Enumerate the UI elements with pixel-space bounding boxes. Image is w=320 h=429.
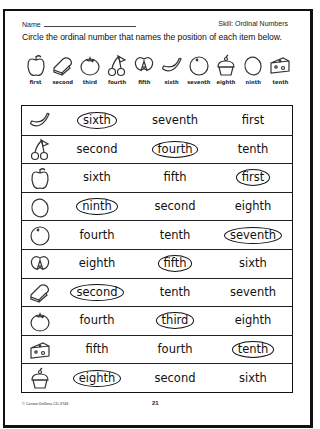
ordinal-option[interactable]: fifth bbox=[58, 342, 136, 357]
item-picture bbox=[22, 309, 58, 333]
pretzel-icon bbox=[131, 53, 157, 77]
item-picture bbox=[22, 223, 58, 247]
circled-answer: tenth bbox=[232, 341, 275, 358]
circled-answer: third bbox=[156, 312, 195, 329]
apple-icon bbox=[23, 53, 49, 77]
legend-item: first bbox=[22, 53, 49, 85]
legend-item: ninth bbox=[240, 53, 267, 85]
legend-item: tenth bbox=[267, 53, 294, 85]
bread-icon bbox=[50, 53, 76, 77]
item-picture bbox=[22, 280, 58, 304]
instructions: Circle the ordinal number that names the… bbox=[22, 32, 282, 42]
option-label: fourth bbox=[154, 342, 197, 357]
legend-label: tenth bbox=[273, 79, 289, 85]
legend-item: eighth bbox=[213, 53, 240, 85]
orange-icon bbox=[28, 223, 52, 247]
ordinal-option[interactable]: tenth bbox=[214, 341, 292, 358]
option-label: eighth bbox=[75, 256, 120, 271]
ordinal-legend: firstsecondthirdfourthfifthsixthseventhe… bbox=[22, 53, 294, 85]
cheese-icon bbox=[267, 53, 293, 77]
legend-label: fifth bbox=[138, 79, 150, 85]
ordinal-option[interactable]: second bbox=[136, 199, 214, 214]
ordinal-option[interactable]: seventh bbox=[214, 285, 292, 300]
table-row: ninthsecondeighth bbox=[22, 192, 292, 221]
ordinal-option[interactable]: fourth bbox=[136, 141, 214, 158]
item-picture bbox=[22, 166, 58, 190]
ordinal-option[interactable]: third bbox=[136, 312, 214, 329]
name-field: Name bbox=[22, 20, 136, 28]
circled-answer: sixth bbox=[77, 112, 117, 129]
ordinal-option[interactable]: seventh bbox=[136, 113, 214, 128]
pretzel-icon bbox=[28, 252, 52, 276]
option-label: seventh bbox=[148, 113, 202, 128]
option-label: fourth bbox=[76, 313, 119, 328]
ordinal-option[interactable]: first bbox=[214, 113, 292, 128]
option-label: tenth bbox=[234, 142, 273, 157]
ordinal-option[interactable]: sixth bbox=[58, 170, 136, 185]
ordinal-option[interactable]: fifth bbox=[136, 255, 214, 272]
table-row: fourththirdeighth bbox=[22, 306, 292, 335]
ordinal-option[interactable]: second bbox=[58, 284, 136, 301]
table-row: fifthfourthtenth bbox=[22, 335, 292, 364]
option-label: second bbox=[72, 142, 121, 157]
table-row: fourthtenthseventh bbox=[22, 220, 292, 249]
page-number: 21 bbox=[152, 400, 159, 406]
legend-label: fourth bbox=[108, 79, 126, 85]
circled-answer: fifth bbox=[158, 255, 193, 272]
circled-answer: fourth bbox=[152, 141, 199, 158]
ordinal-option[interactable]: sixth bbox=[214, 371, 292, 386]
item-picture bbox=[22, 195, 58, 219]
cupcake-icon bbox=[28, 366, 52, 390]
cherries-icon bbox=[28, 137, 52, 161]
item-picture bbox=[22, 366, 58, 390]
ordinal-option[interactable]: tenth bbox=[214, 142, 292, 157]
table-row: sixthfifthfirst bbox=[22, 163, 292, 192]
legend-label: seventh bbox=[187, 79, 210, 85]
legend-label: ninth bbox=[246, 79, 261, 85]
banana-icon bbox=[28, 108, 52, 132]
ordinal-option[interactable]: eighth bbox=[58, 370, 136, 387]
legend-label: first bbox=[30, 79, 42, 85]
table-row: eighthfifthsixth bbox=[22, 249, 292, 278]
ordinal-option[interactable]: second bbox=[58, 142, 136, 157]
table-row: secondfourthtenth bbox=[22, 135, 292, 164]
option-label: eighth bbox=[231, 313, 276, 328]
name-label: Name bbox=[22, 21, 41, 28]
ordinal-option[interactable]: seventh bbox=[214, 227, 292, 244]
ordinal-option[interactable]: tenth bbox=[136, 285, 214, 300]
ordinal-option[interactable]: sixth bbox=[214, 256, 292, 271]
ordinal-option[interactable]: eighth bbox=[58, 256, 136, 271]
legend-label: sixth bbox=[164, 79, 178, 85]
cherries-icon bbox=[104, 53, 130, 77]
legend-label: third bbox=[83, 79, 97, 85]
ordinal-option[interactable]: fourth bbox=[136, 342, 214, 357]
tomato-icon bbox=[77, 53, 103, 77]
ordinal-option[interactable]: ninth bbox=[58, 198, 136, 215]
tomato-icon bbox=[28, 309, 52, 333]
name-blank-line bbox=[44, 20, 136, 27]
ordinal-option[interactable]: first bbox=[214, 169, 292, 186]
item-picture bbox=[22, 137, 58, 161]
legend-item: fourth bbox=[104, 53, 131, 85]
ordinal-option[interactable]: sixth bbox=[58, 112, 136, 129]
option-label: sixth bbox=[235, 371, 271, 386]
legend-label: eighth bbox=[217, 79, 236, 85]
item-picture bbox=[22, 252, 58, 276]
ordinal-option[interactable]: tenth bbox=[136, 228, 214, 243]
table-row: sixthseventhfirst bbox=[22, 106, 292, 135]
ordinal-option[interactable]: fifth bbox=[136, 170, 214, 185]
ordinal-option[interactable]: eighth bbox=[214, 313, 292, 328]
bread-icon bbox=[28, 280, 52, 304]
option-label: seventh bbox=[226, 285, 280, 300]
ordinal-option[interactable]: second bbox=[136, 371, 214, 386]
ordinal-option[interactable]: eighth bbox=[214, 199, 292, 214]
option-label: second bbox=[150, 199, 199, 214]
legend-label: second bbox=[52, 79, 73, 85]
orange-icon bbox=[186, 53, 212, 77]
ordinal-option[interactable]: fourth bbox=[58, 313, 136, 328]
option-label: second bbox=[150, 371, 199, 386]
circled-answer: first bbox=[236, 169, 270, 186]
egg-icon bbox=[28, 195, 52, 219]
ordinal-option[interactable]: fourth bbox=[58, 228, 136, 243]
copyright: © Carson-Dellosa CD-3746 bbox=[22, 402, 68, 406]
